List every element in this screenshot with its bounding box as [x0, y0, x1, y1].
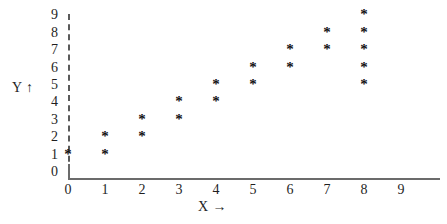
data-point: * — [359, 9, 370, 20]
data-point: * — [248, 62, 259, 73]
y-tick-label-3: 3 — [44, 113, 58, 127]
y-tick-label-8: 8 — [44, 26, 58, 40]
y-axis-stub — [68, 164, 70, 179]
y-tick-label-1: 1 — [44, 148, 58, 162]
y-axis-title: Y ↑ — [12, 80, 34, 96]
x-tick-label-4: 4 — [209, 183, 223, 197]
x-tick-label-3: 3 — [172, 183, 186, 197]
data-point: * — [174, 114, 185, 125]
data-point: * — [359, 44, 370, 55]
data-point: * — [211, 96, 222, 107]
data-point: * — [359, 79, 370, 90]
scatter-plot-figure: Y ↑ X → 0123456789 0123456789 **********… — [0, 0, 447, 224]
data-point: * — [137, 131, 148, 142]
y-tick-label-7: 7 — [44, 43, 58, 57]
data-point: * — [322, 27, 333, 38]
x-tick-label-8: 8 — [357, 183, 371, 197]
x-tick-label-5: 5 — [246, 183, 260, 197]
data-point: * — [359, 27, 370, 38]
data-point: * — [359, 62, 370, 73]
x-tick-label-1: 1 — [98, 183, 112, 197]
y-tick-label-5: 5 — [44, 78, 58, 92]
data-point: * — [174, 96, 185, 107]
data-point: * — [285, 62, 296, 73]
data-point: * — [137, 114, 148, 125]
y-tick-label-0: 0 — [44, 165, 58, 179]
data-point: * — [248, 79, 259, 90]
x-tick-label-9: 9 — [394, 183, 408, 197]
x-tick-label-2: 2 — [135, 183, 149, 197]
data-point: * — [211, 79, 222, 90]
x-tick-label-7: 7 — [320, 183, 334, 197]
x-axis-title: X → — [198, 199, 227, 215]
data-point: * — [285, 44, 296, 55]
data-point: * — [100, 131, 111, 142]
y-tick-label-6: 6 — [44, 61, 58, 75]
x-axis-line — [68, 178, 440, 180]
y-tick-label-4: 4 — [44, 95, 58, 109]
x-tick-label-0: 0 — [61, 183, 75, 197]
data-point: * — [63, 149, 74, 160]
y-tick-label-9: 9 — [44, 8, 58, 22]
y-tick-label-2: 2 — [44, 130, 58, 144]
data-point: * — [322, 44, 333, 55]
data-point: * — [100, 149, 111, 160]
x-tick-label-6: 6 — [283, 183, 297, 197]
